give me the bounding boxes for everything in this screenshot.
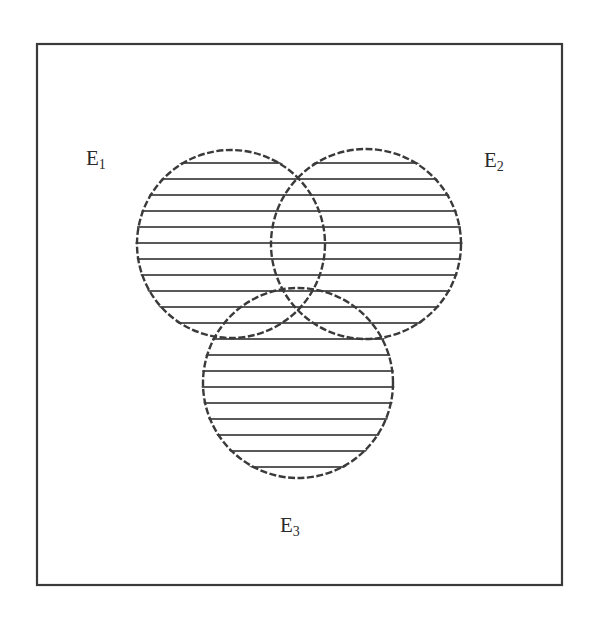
set-label-subscript: 2	[497, 159, 504, 174]
sample-space-frame	[37, 44, 562, 585]
set-label-subscript: 1	[99, 157, 106, 172]
set-circle-e3	[203, 288, 393, 478]
venn-diagram: E1 E2 E3	[0, 0, 595, 624]
hatch-lines	[120, 163, 480, 467]
set-label-base: E	[484, 148, 497, 172]
set-label-e3: E3	[280, 515, 300, 539]
set-circles	[137, 149, 461, 478]
set-circle-e2	[271, 149, 461, 339]
set-label-e2: E2	[484, 150, 504, 174]
set-label-e1: E1	[86, 148, 106, 172]
set-label-base: E	[86, 146, 99, 170]
set-label-base: E	[280, 513, 293, 537]
set-label-subscript: 3	[293, 524, 300, 539]
